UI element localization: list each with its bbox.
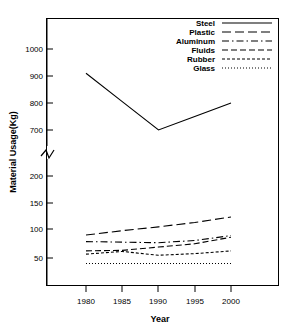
legend-label-plastic: Plastic (189, 28, 215, 37)
y-tick-label-1000: 1000 (25, 45, 43, 54)
series-line-fluids (86, 237, 231, 251)
legend-label-steel: Steel (196, 19, 215, 28)
y-ticks-lower (47, 176, 53, 258)
y-tick-label-200: 200 (30, 172, 44, 181)
series-line-steel (86, 73, 231, 130)
y-ticks-upper (47, 49, 53, 130)
y-axis-title: Material Usage(Kg) (8, 111, 18, 193)
y-tick-label-150: 150 (30, 199, 44, 208)
y-tick-label-900: 900 (30, 72, 44, 81)
x-tick-label-1995: 1995 (186, 297, 204, 306)
axis-break-icon (41, 150, 54, 158)
series-line-rubber (86, 251, 231, 255)
y-tick-label-50: 50 (34, 254, 43, 263)
y-tick-label-100: 100 (30, 225, 44, 234)
legend-label-glass: Glass (193, 64, 215, 73)
x-tick-label-1990: 1990 (149, 297, 167, 306)
x-tick-label-1985: 1985 (113, 297, 131, 306)
y-tick-label-700: 700 (30, 126, 44, 135)
y-tick-label-800: 800 (30, 99, 44, 108)
x-ticks (86, 285, 231, 292)
legend-label-aluminum: Aluminum (176, 37, 215, 46)
legend: Steel Plastic Aluminum Fluids Rubber Gla… (176, 19, 272, 73)
series-line-aluminum (86, 236, 231, 243)
chart-container: 1000 900 800 700 200 150 100 50 1980 198… (0, 0, 300, 336)
x-tick-label-1980: 1980 (77, 297, 95, 306)
x-tick-label-2000: 2000 (222, 297, 240, 306)
legend-label-rubber: Rubber (187, 55, 215, 64)
series-line-plastic (86, 217, 231, 235)
x-axis-title: Year (150, 314, 170, 324)
line-chart: 1000 900 800 700 200 150 100 50 1980 198… (0, 0, 300, 336)
legend-label-fluids: Fluids (191, 46, 215, 55)
